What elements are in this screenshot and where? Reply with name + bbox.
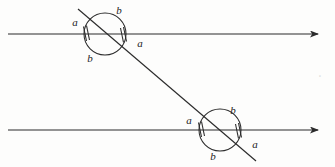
angle-label-top-lower-b: b — [87, 53, 93, 64]
angle-label-bottom-right-a: a — [252, 139, 258, 150]
transversal-line — [78, 9, 256, 161]
angle-label-bottom-lower-b: b — [210, 151, 216, 162]
scan-artifact-mark: ˚ — [319, 74, 321, 82]
figure-canvas — [0, 0, 335, 167]
angle-label-top-left-a: a — [72, 17, 78, 28]
angle-label-bottom-upper-b: b — [230, 105, 236, 116]
angle-label-bottom-left-a: a — [186, 115, 192, 126]
angle-label-top-upper-b: b — [116, 5, 122, 16]
geometry-figure: a b b a a b b a ˚ — [0, 0, 335, 167]
angle-label-top-right-a: a — [137, 38, 143, 49]
